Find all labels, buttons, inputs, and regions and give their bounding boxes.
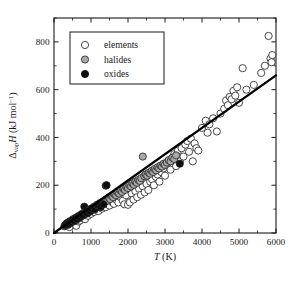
x-tick-label: 0	[52, 237, 57, 247]
data-point	[261, 62, 268, 69]
data-point	[232, 92, 239, 99]
legend-label: elements	[104, 39, 138, 50]
x-axis-title: T (K)	[154, 251, 176, 263]
legend-marker-open-circle	[81, 41, 88, 48]
trendline-segment	[54, 75, 276, 233]
y-tick-label: 800	[36, 37, 50, 47]
data-point	[213, 128, 220, 135]
data-point	[258, 69, 265, 76]
data-point	[268, 59, 275, 66]
data-point	[243, 86, 250, 93]
data-point	[189, 158, 196, 165]
data-point	[265, 32, 272, 39]
x-tick-label: 6000	[267, 237, 286, 247]
x-tick-label: 3000	[156, 237, 175, 247]
legend: elementshalidesoxides	[70, 32, 164, 84]
data-point	[185, 148, 192, 155]
data-point	[103, 182, 110, 189]
legend-label: oxides	[104, 68, 129, 79]
x-tick-label: 1000	[82, 237, 101, 247]
trendline	[54, 75, 276, 233]
y-tick-label: 400	[36, 133, 50, 143]
legend-marker-filled-circle	[81, 70, 88, 77]
legend-label: halides	[104, 54, 131, 65]
data-point	[204, 129, 211, 136]
data-point	[234, 84, 241, 91]
data-point	[195, 147, 202, 154]
x-tick-label: 4000	[193, 237, 212, 247]
scatter-plot: 01000200030004000500060000200400600800 T…	[0, 0, 294, 287]
data-point	[156, 178, 163, 185]
data-point	[161, 172, 168, 179]
x-tick-label: 2000	[119, 237, 138, 247]
data-point	[139, 153, 146, 160]
y-tick-label: 0	[45, 228, 50, 238]
data-point	[173, 152, 180, 159]
legend-marker-gray-circle	[81, 56, 88, 63]
data-point	[269, 51, 276, 58]
data-point	[100, 201, 107, 208]
figure-container: 01000200030004000500060000200400600800 T…	[0, 0, 294, 287]
data-point	[239, 65, 246, 72]
y-tick-label: 200	[36, 180, 50, 190]
y-axis-title: ΔvapH (kJ mol−1)	[7, 92, 20, 158]
y-tick-label: 600	[36, 85, 50, 95]
data-point	[250, 81, 257, 88]
x-tick-label: 5000	[230, 237, 249, 247]
data-point	[176, 160, 183, 167]
